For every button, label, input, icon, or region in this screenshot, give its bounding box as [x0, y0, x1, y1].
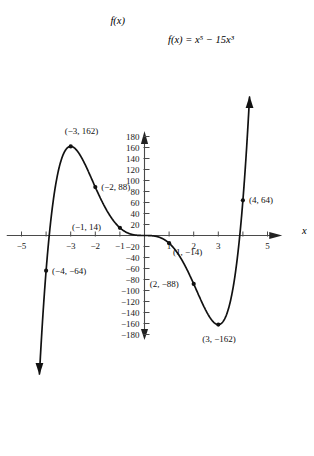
y-tick-label: −120	[121, 297, 140, 307]
point-marker	[69, 144, 73, 148]
point-label: (−1, 14)	[72, 222, 101, 232]
x-axis-ticks: −5−3−2−11235	[17, 232, 271, 251]
y-tick-label: −160	[121, 319, 140, 329]
y-tick-label: 140	[126, 154, 140, 164]
point-label: (−4, −64)	[52, 266, 86, 276]
y-tick-label: 120	[126, 165, 140, 175]
y-tick-label: −180	[121, 330, 140, 340]
point-marker	[167, 241, 171, 245]
y-axis-arrow-up-icon	[141, 131, 148, 144]
y-tick-label: −60	[125, 264, 140, 274]
equation-annotation: f(x) = x⁵ − 15x³	[168, 34, 235, 46]
curve-arrow-up-right-icon	[246, 96, 254, 108]
y-tick-label: −80	[125, 275, 140, 285]
x-axis-arrow-right-icon	[269, 232, 282, 239]
y-tick-label: −20	[125, 242, 140, 252]
point-marker	[241, 198, 245, 202]
y-tick-label: 180	[126, 132, 140, 142]
y-tick-label: 160	[126, 143, 140, 153]
x-tick-label: 3	[216, 241, 221, 251]
point-label: (−2, 88)	[101, 182, 130, 192]
point-marker	[192, 282, 196, 286]
y-tick-label: −140	[121, 308, 140, 318]
point-marker	[44, 269, 48, 273]
y-tick-label: 60	[131, 198, 141, 208]
x-tick-label: −2	[91, 241, 101, 251]
x-tick-label: 5	[265, 241, 270, 251]
y-axis-label: f(x)	[110, 15, 125, 27]
y-tick-label: −100	[121, 286, 140, 296]
point-label: (1, −14)	[173, 247, 202, 257]
y-tick-label: −40	[125, 253, 140, 263]
point-label: (−3, 162)	[65, 126, 99, 136]
x-axis-label: x	[301, 225, 307, 236]
x-tick-label: −5	[17, 241, 27, 251]
y-tick-label: 20	[131, 220, 141, 230]
curve-arrow-down-left-icon	[36, 363, 44, 375]
x-tick-label: −1	[115, 241, 125, 251]
point-label: (4, 64)	[249, 195, 273, 205]
point-marker	[93, 185, 97, 189]
point-marker	[118, 226, 122, 230]
y-tick-label: 40	[131, 209, 141, 219]
function-graph-figure: −5−3−2−11235 −180−160−140−120−100−80−60−…	[0, 0, 314, 456]
point-label: (2, −88)	[150, 279, 179, 289]
point-label: (3, −162)	[202, 334, 236, 344]
graph-canvas: −5−3−2−11235 −180−160−140−120−100−80−60−…	[0, 0, 314, 456]
y-tick-label: 80	[131, 187, 141, 197]
point-marker	[216, 323, 220, 327]
x-tick-label: −3	[66, 241, 76, 251]
